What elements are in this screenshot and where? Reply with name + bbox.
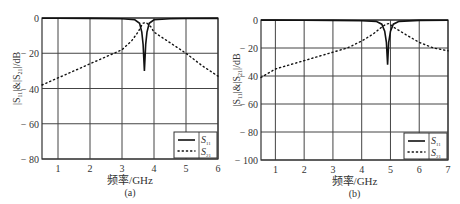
x-tick-label: 1	[273, 164, 278, 175]
x-tick-label: 2	[88, 163, 93, 174]
chart-a: 1234560− 20− 40− 60− 80频率/GHz(a)|S11|&|S…	[0, 0, 230, 204]
chart-panel-a: 1234560− 20− 40− 60− 80频率/GHz(a)|S11|&|S…	[0, 0, 230, 204]
x-tick-label: 5	[388, 164, 393, 175]
chart-caption: (b)	[349, 188, 361, 200]
x-tick-label: 4	[152, 163, 157, 174]
y-tick-label: − 20	[240, 43, 258, 54]
x-tick-label: 1	[56, 163, 61, 174]
x-tick-label: 5	[184, 163, 189, 174]
y-tick-label: − 80	[240, 127, 258, 138]
x-tick-label: 7	[446, 164, 451, 175]
chart-b: 12345670− 20− 40− 60− 80− 100频率/GHz(b)|S…	[230, 0, 460, 204]
chart-panel-b: 12345670− 20− 40− 60− 80− 100频率/GHz(b)|S…	[230, 0, 460, 204]
y-axis-label: |S11|&|S21|/dB	[231, 53, 243, 106]
y-tick-label: − 60	[21, 119, 39, 130]
y-axis-label: |S11|&|S21|/dB	[11, 52, 23, 105]
x-tick-label: 3	[330, 164, 335, 175]
series-s21	[261, 24, 448, 78]
y-tick-label: − 100	[235, 155, 258, 166]
x-tick-label: 2	[302, 164, 307, 175]
y-tick-label: 0	[34, 13, 39, 24]
x-tick-label: 6	[216, 163, 221, 174]
legend: S11S21	[174, 132, 217, 158]
y-tick-label: − 20	[21, 48, 39, 59]
y-tick-label: − 60	[240, 99, 258, 110]
x-axis-label: 频率/GHz	[107, 173, 153, 186]
y-tick-label: 0	[253, 15, 258, 26]
x-tick-label: 3	[120, 163, 125, 174]
legend: S11S21	[404, 133, 447, 159]
chart-caption: (a)	[124, 187, 135, 199]
series-s11	[42, 18, 218, 71]
y-tick-label: − 80	[21, 154, 39, 165]
x-tick-label: 4	[359, 164, 364, 175]
x-axis-label: 频率/GHz	[332, 174, 378, 187]
y-tick-label: − 40	[21, 84, 39, 95]
x-tick-label: 6	[417, 164, 422, 175]
